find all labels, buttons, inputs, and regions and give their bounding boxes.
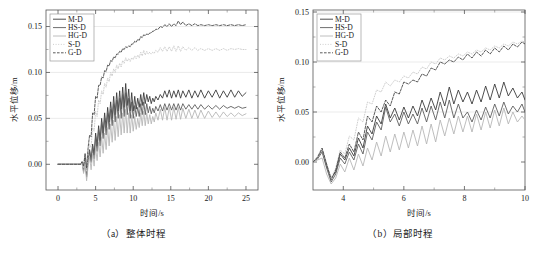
chart-panel-a: 0.000.050.100.150510152025时间/s水平位移/mM-DH… — [0, 0, 267, 258]
legend-label-g-d: G-D — [68, 48, 82, 57]
xtick-label: 10 — [521, 194, 529, 203]
ytick-label: 0.00 — [28, 160, 42, 169]
ytick-label: 0.10 — [28, 68, 42, 77]
series-line-s-d — [58, 46, 246, 172]
xtick-label: 5 — [94, 194, 98, 203]
panel-b-caption: （b）局部时程 — [267, 226, 534, 240]
xtick-label: 0 — [56, 194, 60, 203]
xtick-label: 15 — [167, 194, 175, 203]
xtick-label: 8 — [462, 194, 466, 203]
x-axis-title: 时间/s — [140, 208, 164, 218]
xtick-label: 6 — [402, 194, 406, 203]
chart-panel-b: 0.000.050.100.1546810时间/s水平位移/mM-DHS-DHG… — [267, 0, 534, 258]
xtick-label: 20 — [204, 194, 212, 203]
xtick-label: 25 — [242, 194, 250, 203]
ytick-label: 0.05 — [295, 108, 309, 117]
y-axis-title: 水平位移/m — [276, 77, 286, 122]
ytick-label: 0.15 — [28, 22, 42, 31]
ytick-label: 0.10 — [295, 58, 309, 67]
ytick-label: 0.05 — [28, 114, 42, 123]
legend-label-g-d: G-D — [335, 48, 349, 57]
chart-svg-b: 0.000.050.100.1546810时间/s水平位移/mM-DHS-DHG… — [267, 0, 534, 258]
figure-container: 0.000.050.100.150510152025时间/s水平位移/mM-DH… — [0, 0, 535, 258]
ytick-label: 0.15 — [295, 8, 309, 17]
xtick-label: 10 — [129, 194, 137, 203]
y-axis-title: 水平位移/m — [9, 77, 19, 122]
series-group — [313, 41, 525, 184]
xtick-label: 4 — [341, 194, 345, 203]
legend: M-DHS-DHG-DS-DG-D — [50, 14, 94, 61]
x-axis-title: 时间/s — [407, 208, 431, 218]
panel-a-caption: （a）整体时程 — [0, 226, 267, 240]
legend: M-DHS-DHG-DS-DG-D — [317, 14, 361, 61]
ytick-label: 0.00 — [295, 158, 309, 167]
chart-svg-a: 0.000.050.100.150510152025时间/s水平位移/mM-DH… — [0, 0, 267, 258]
